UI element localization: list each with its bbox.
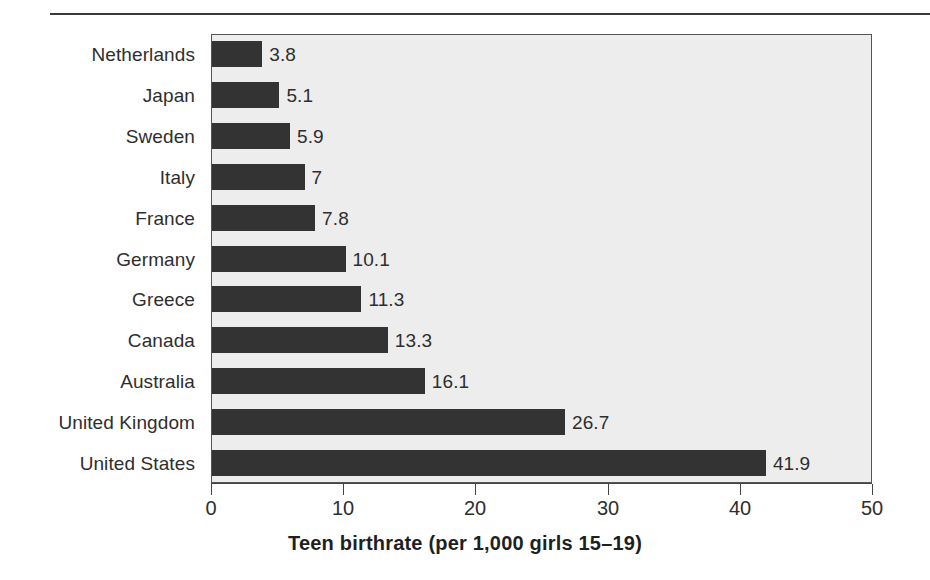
category-label: Germany (116, 250, 195, 269)
bar (212, 246, 346, 272)
category-label: Italy (160, 168, 195, 187)
category-label: Canada (128, 331, 195, 350)
bar-row: 26.7 (212, 409, 872, 435)
category-label: France (135, 209, 195, 228)
x-axis-tick (211, 484, 212, 495)
bar (212, 450, 766, 476)
bar-value-label: 41.9 (773, 453, 810, 472)
bar-row: 7 (212, 164, 872, 190)
category-label: Sweden (126, 127, 195, 146)
bar-value-label: 5.1 (286, 86, 313, 105)
bar (212, 368, 425, 394)
x-axis-tick-label: 10 (332, 498, 354, 518)
bar (212, 327, 388, 353)
bar-row: 13.3 (212, 327, 872, 353)
x-axis-tick (740, 484, 741, 495)
x-axis-tick (608, 484, 609, 495)
bar-value-label: 3.8 (269, 45, 296, 64)
category-label: Greece (132, 290, 195, 309)
category-label: Australia (120, 372, 195, 391)
x-axis-tick (872, 484, 873, 495)
bar-row: 5.1 (212, 82, 872, 108)
x-axis-line (211, 483, 872, 484)
bar-value-label: 7.8 (322, 208, 349, 227)
x-axis-tick-label: 0 (205, 498, 216, 518)
x-axis-tick-label: 30 (597, 498, 619, 518)
bar (212, 286, 361, 312)
bar-value-label: 11.3 (368, 290, 404, 309)
bar (212, 409, 565, 435)
bar-value-label: 10.1 (353, 249, 390, 268)
x-axis-tick-label: 20 (464, 498, 486, 518)
category-label: United Kingdom (58, 413, 195, 432)
bar-row: 3.8 (212, 41, 872, 67)
category-label: Netherlands (91, 45, 195, 64)
x-axis-tick-label: 40 (729, 498, 751, 518)
bar-value-label: 26.7 (572, 412, 609, 431)
bar-row: 11.3 (212, 286, 872, 312)
x-axis-title: Teen birthrate (per 1,000 girls 15–19) (0, 532, 930, 555)
category-axis: NetherlandsJapanSwedenItalyFranceGermany… (0, 34, 203, 483)
bar-row: 41.9 (212, 450, 872, 476)
bar-value-label: 13.3 (395, 331, 432, 350)
bar-value-label: 5.9 (297, 127, 324, 146)
bar-row: 5.9 (212, 123, 872, 149)
x-axis-tick (343, 484, 344, 495)
category-label: Japan (143, 86, 195, 105)
bar (212, 164, 305, 190)
bar-value-label: 16.1 (432, 371, 469, 390)
bar (212, 123, 290, 149)
bar-row: 16.1 (212, 368, 872, 394)
bar (212, 41, 262, 67)
bar-row: 10.1 (212, 246, 872, 272)
bar (212, 205, 315, 231)
category-label: United States (80, 454, 195, 473)
bar-row: 7.8 (212, 205, 872, 231)
bars-layer: 3.85.15.977.810.111.313.316.126.741.9 (212, 34, 872, 483)
teen-birthrate-bar-chart: NetherlandsJapanSwedenItalyFranceGermany… (0, 0, 930, 580)
top-rule-divider (50, 13, 930, 15)
bar-value-label: 7 (312, 167, 323, 186)
x-axis-tick (475, 484, 476, 495)
x-axis-tick-label: 50 (861, 498, 883, 518)
bar (212, 82, 279, 108)
